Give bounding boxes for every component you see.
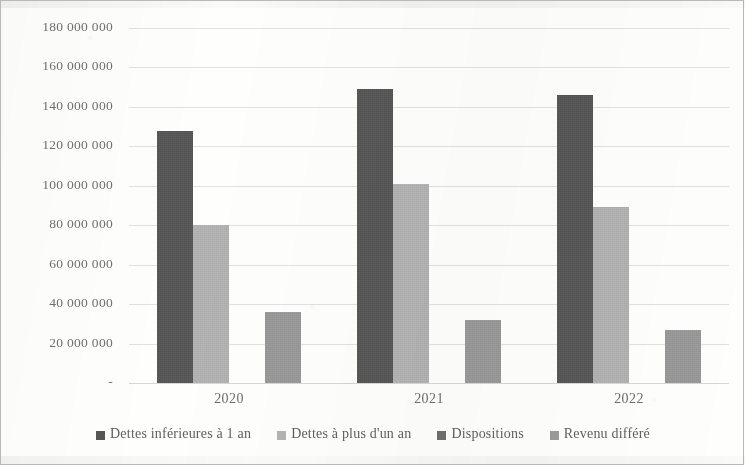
y-axis-tick-label: 40 000 000 <box>1 295 113 311</box>
y-axis-tick-label: 100 000 000 <box>1 177 113 193</box>
x-axis-tick-label: 2021 <box>329 391 529 407</box>
x-axis-tick-labels: 202020212022 <box>129 391 729 413</box>
legend-label: Dettes à plus d'un an <box>291 426 411 442</box>
y-axis-tick-label: 80 000 000 <box>1 216 113 232</box>
legend-label: Dettes inférieures à 1 an <box>110 426 251 442</box>
gridline <box>129 383 729 384</box>
legend-item[interactable]: Dispositions <box>437 426 523 442</box>
legend-swatch-icon <box>277 431 286 440</box>
bottom-scan-smudge <box>1 456 745 464</box>
legend-swatch-icon <box>96 431 105 440</box>
bar <box>265 312 301 383</box>
bar <box>357 89 393 383</box>
legend-label: Revenu différé <box>564 426 650 442</box>
bar <box>393 184 429 383</box>
chart-legend: Dettes inférieures à 1 anDettes à plus d… <box>1 426 745 442</box>
y-axis-tick-label: - <box>1 374 113 390</box>
bars-layer <box>129 28 729 383</box>
y-axis-tick-label: 160 000 000 <box>1 58 113 74</box>
y-axis-tick-label: 140 000 000 <box>1 98 113 114</box>
top-scan-smudge <box>1 1 745 8</box>
legend-label: Dispositions <box>451 426 523 442</box>
x-axis-tick-label: 2022 <box>529 391 729 407</box>
y-axis-tick-label: 180 000 000 <box>1 19 113 35</box>
y-axis-tick-label: 120 000 000 <box>1 137 113 153</box>
bar <box>593 207 629 383</box>
bar <box>665 330 701 383</box>
legend-swatch-icon <box>550 431 559 440</box>
y-axis-tick-label: 20 000 000 <box>1 335 113 351</box>
legend-item[interactable]: Revenu différé <box>550 426 650 442</box>
y-axis-tick-label: 60 000 000 <box>1 256 113 272</box>
legend-swatch-icon <box>437 431 446 440</box>
bar <box>157 131 193 383</box>
x-axis-tick-label: 2020 <box>129 391 329 407</box>
bar <box>193 225 229 383</box>
bar <box>557 95 593 383</box>
legend-item[interactable]: Dettes inférieures à 1 an <box>96 426 251 442</box>
legend-item[interactable]: Dettes à plus d'un an <box>277 426 411 442</box>
plot-area <box>129 28 729 383</box>
bar <box>465 320 501 383</box>
